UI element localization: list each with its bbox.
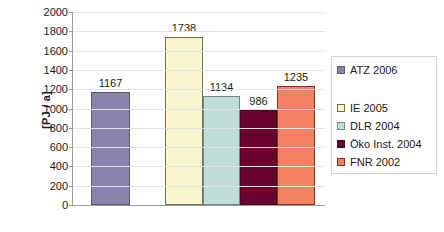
legend-swatch-icon [337,140,345,148]
y-axis-tick-label: 1000 [26,104,68,114]
legend-item[interactable]: DLR 2004 [337,119,400,133]
y-axis-tick-label: 1600 [26,46,68,56]
legend-label: FNR 2002 [350,156,400,168]
gridline [73,31,325,32]
y-axis-tick-label: 400 [26,161,68,171]
legend-swatch-icon [337,104,345,112]
y-axis-tick-label: 1200 [26,84,68,94]
gridline [73,51,325,52]
gridline [73,109,325,110]
y-axis-tick-label: 0 [26,200,68,210]
bar-value-label: 1738 [157,22,211,34]
legend-item[interactable]: IE 2005 [337,101,388,115]
gridline [73,89,325,90]
y-axis-tick-label: 1400 [26,65,68,75]
gridline [73,12,325,13]
legend-item[interactable]: ATZ 2006 [337,63,398,77]
y-axis-tick-label: 2000 [26,7,68,17]
y-axis-tickmark [69,128,72,129]
legend-label: ATZ 2006 [350,64,398,76]
y-axis-tickmark [69,89,72,90]
bar-value-label: 1235 [269,71,323,83]
y-axis-tickmark [69,12,72,13]
y-axis-tick-label: 600 [26,142,68,152]
bar-value-label: 1167 [83,77,138,89]
y-axis-tickmark [69,70,72,71]
y-axis-tick-label: 800 [26,123,68,133]
legend-item[interactable]: FNR 2002 [337,155,400,169]
y-axis-tick-label: 200 [26,181,68,191]
legend-item[interactable]: Öko Inst. 2004 [337,137,422,151]
y-axis-tickmark [69,31,72,32]
plot-area: 1167173811349861235 [72,12,325,206]
legend: ATZ 2006IE 2005DLR 2004Öko Inst. 2004FNR… [331,56,437,174]
gridline [73,166,325,167]
gridline [73,147,325,148]
y-axis-tickmark [69,51,72,52]
y-axis-tickmark [69,166,72,167]
bar-value-label: 1134 [195,81,248,93]
y-axis-tickmark [69,147,72,148]
gridline [73,70,325,71]
bar [277,86,315,205]
gridline [73,186,325,187]
legend-label: DLR 2004 [350,120,400,132]
legend-label: IE 2005 [350,102,388,114]
legend-swatch-icon [337,122,345,130]
bar [165,37,203,205]
y-axis-tick-label: 1800 [26,26,68,36]
legend-label: Öko Inst. 2004 [350,138,422,150]
bar-chart: [PJ / a] 2000180016001400120010008006004… [0,0,444,232]
bar [203,96,240,205]
gridline [73,128,325,129]
legend-swatch-icon [337,158,345,166]
y-axis-tickmark [69,109,72,110]
y-axis-tickmark [69,205,72,206]
bar [240,110,277,205]
y-axis-tick-labels: 2000180016001400120010008006004002000 [26,12,68,206]
legend-swatch-icon [337,66,345,74]
y-axis-tickmark [69,186,72,187]
